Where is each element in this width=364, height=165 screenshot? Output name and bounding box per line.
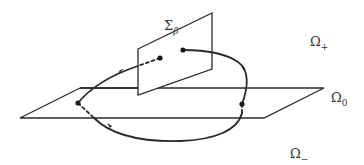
diagram-canvas: Σβ Ω+ Ω0 Ω− xyxy=(0,0,364,165)
label-omega-plus: Ω+ xyxy=(310,34,328,52)
point-behind-sigma xyxy=(157,55,162,60)
plane-omega-0-outline xyxy=(20,88,324,118)
orbit-solid-segment-upper-left xyxy=(78,66,138,103)
point-left-crossing xyxy=(75,100,80,105)
point-front-sigma xyxy=(180,47,185,52)
orbit-dashed-segment-below-omega-left xyxy=(78,103,94,118)
label-omega-minus: Ω− xyxy=(290,146,308,164)
orbit-solid-segment-lower xyxy=(94,113,242,141)
point-right-crossing xyxy=(239,101,244,106)
horizontal-plane-omega-0 xyxy=(20,88,324,118)
label-omega-zero: Ω0 xyxy=(331,90,348,108)
